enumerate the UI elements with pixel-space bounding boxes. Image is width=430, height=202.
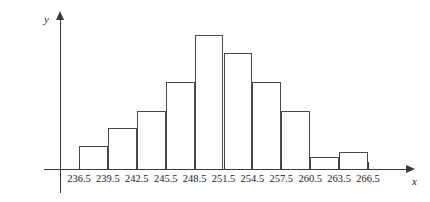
x-axis-tick bbox=[137, 162, 138, 170]
histogram-bar bbox=[310, 157, 339, 169]
x-axis-tick-label: 257.5 bbox=[269, 173, 293, 185]
histogram-bar bbox=[195, 35, 224, 169]
histogram-bar bbox=[281, 111, 310, 169]
x-axis-tick bbox=[339, 162, 340, 170]
x-axis-tick bbox=[224, 162, 225, 170]
histogram-bar bbox=[79, 146, 108, 169]
x-axis-tick-label: 254.5 bbox=[241, 173, 265, 185]
x-axis-tick-label: 242.5 bbox=[125, 173, 149, 185]
histogram-bar bbox=[166, 82, 195, 169]
x-axis-tick bbox=[79, 162, 80, 170]
x-axis-tick-label: 263.5 bbox=[327, 173, 351, 185]
x-axis-tick bbox=[310, 162, 311, 170]
plot-area: 236.5239.5242.5245.5248.5251.5254.5257.5… bbox=[0, 0, 430, 202]
histogram-bar bbox=[339, 152, 368, 169]
x-axis-tick-label: 239.5 bbox=[96, 173, 120, 185]
x-axis-tick-label: 245.5 bbox=[154, 173, 178, 185]
histogram-bar bbox=[224, 53, 253, 169]
x-axis-tick-label: 248.5 bbox=[183, 173, 207, 185]
x-axis-tick bbox=[281, 162, 282, 170]
x-axis-tick-label: 260.5 bbox=[298, 173, 322, 185]
x-axis-tick-label: 251.5 bbox=[212, 173, 236, 185]
histogram-figure: y x 236.5239.5242.5245.5248.5251.5254.52… bbox=[0, 0, 430, 202]
x-axis-tick bbox=[252, 162, 253, 170]
x-axis-tick bbox=[195, 162, 196, 170]
x-axis-tick-label: 266.5 bbox=[356, 173, 380, 185]
x-axis-tick bbox=[368, 162, 369, 170]
histogram-bar bbox=[108, 128, 137, 169]
x-axis-tick bbox=[108, 162, 109, 170]
histogram-bar bbox=[137, 111, 166, 169]
x-axis-tick bbox=[166, 162, 167, 170]
histogram-bar bbox=[252, 82, 281, 169]
x-axis-tick-label: 236.5 bbox=[67, 173, 91, 185]
